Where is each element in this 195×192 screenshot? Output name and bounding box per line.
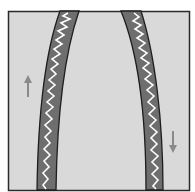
fault-diagram [0,0,195,192]
